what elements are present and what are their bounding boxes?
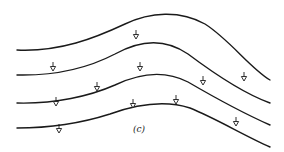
figure-label: (c) xyxy=(133,124,145,134)
down-arrow-icon xyxy=(233,117,238,126)
down-arrow-icon xyxy=(133,30,138,39)
streamline-curve xyxy=(17,43,270,103)
arrows-group xyxy=(50,30,246,133)
down-arrow-icon xyxy=(53,97,58,106)
streamline-curve xyxy=(17,74,270,125)
down-arrow-icon xyxy=(241,72,246,81)
down-arrow-icon xyxy=(200,76,205,85)
down-arrow-icon xyxy=(94,82,99,91)
down-arrow-icon xyxy=(137,62,142,71)
streamline-curve xyxy=(17,14,270,80)
down-arrow-icon xyxy=(173,95,178,104)
down-arrow-icon xyxy=(50,62,55,71)
